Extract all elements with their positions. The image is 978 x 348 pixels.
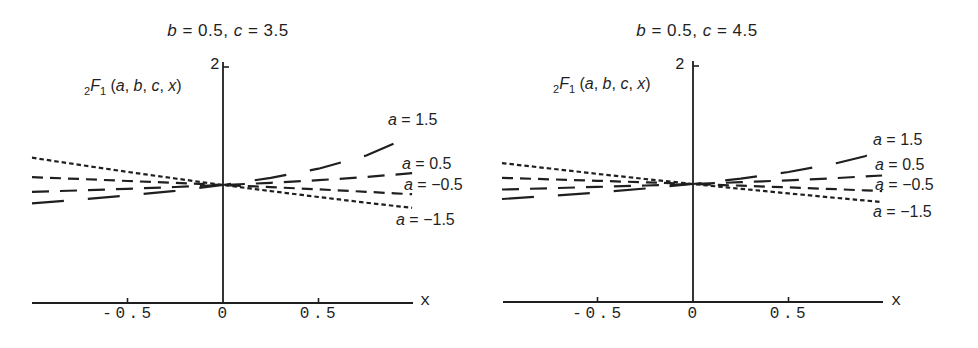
text-segment: = −1.5 <box>405 211 455 228</box>
variable: a <box>875 156 884 173</box>
x-tick-label: -0.5 <box>102 305 154 323</box>
curve-label: a = −0.5 <box>404 176 463 194</box>
curve-a=1.5 <box>502 151 882 199</box>
text-segment: = −0.5 <box>884 176 934 193</box>
figure: b = 0.5, c = 3.5 2F1 (a, b, c, x) 2 -0.5… <box>0 0 978 348</box>
x-tick-label: 0.5 <box>770 305 809 323</box>
curve-a=-0.5 <box>32 177 412 194</box>
variable: a <box>402 155 411 172</box>
variable: a <box>875 176 884 193</box>
x-tick-label: 0 <box>217 305 230 323</box>
plot-svg <box>0 0 489 348</box>
text-segment: = −0.5 <box>413 176 463 193</box>
x-tick-label: 0 <box>687 305 700 323</box>
curve-label: a = 1.5 <box>873 131 922 149</box>
text-segment: = 0.5 <box>884 156 924 173</box>
panel-left: b = 0.5, c = 3.5 2F1 (a, b, c, x) 2 -0.5… <box>0 0 489 348</box>
text-segment: = 1.5 <box>397 111 437 128</box>
curve-label: a = −0.5 <box>875 176 934 194</box>
variable: a <box>404 176 413 193</box>
x-axis-label: x <box>891 291 901 310</box>
curve-a=-1.5 <box>32 158 412 208</box>
variable: a <box>388 111 397 128</box>
text-segment: = 0.5 <box>411 155 451 172</box>
variable: a <box>873 203 882 220</box>
curve-label: a = −1.5 <box>873 203 932 221</box>
variable: a <box>873 131 882 148</box>
curve-a=0.5 <box>32 173 412 192</box>
variable: a <box>396 211 405 228</box>
text-segment: = 1.5 <box>882 131 922 148</box>
curve-label: a = 0.5 <box>402 155 451 173</box>
curve-a=1.5 <box>32 132 412 203</box>
x-tick-label: -0.5 <box>572 305 624 323</box>
text-segment: = −1.5 <box>882 203 932 220</box>
curve-label: a = 0.5 <box>875 156 924 174</box>
x-tick-label: 0.5 <box>300 305 339 323</box>
panel-right: b = 0.5, c = 4.5 2F1 (a, b, c, x) 2 -0.5… <box>490 0 978 348</box>
x-axis-label: x <box>420 291 430 310</box>
plot-svg <box>490 0 978 348</box>
curve-a=0.5 <box>502 176 882 190</box>
curve-label: a = −1.5 <box>396 211 455 229</box>
curve-label: a = 1.5 <box>388 111 437 129</box>
